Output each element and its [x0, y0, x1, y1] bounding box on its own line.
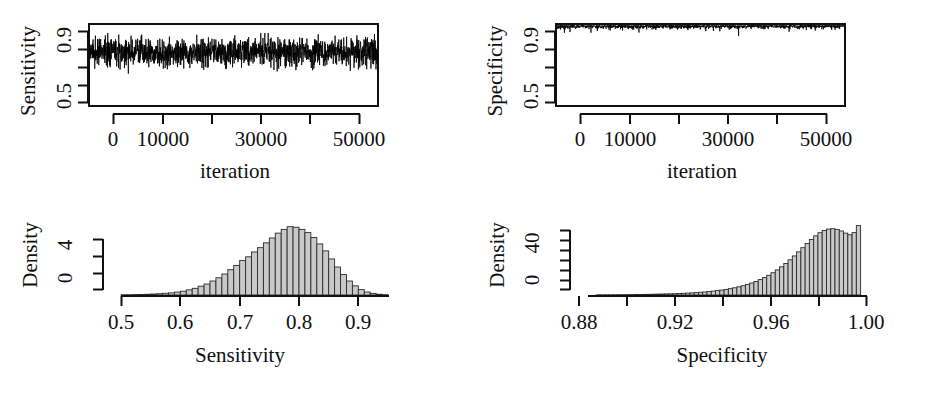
histogram-bar	[222, 274, 228, 295]
histogram-bar	[204, 284, 210, 295]
x-tick-label-1: 0.92	[657, 310, 694, 334]
x-tick-label-1: 0.6	[167, 310, 193, 334]
y-axis-ticks	[560, 230, 570, 290]
histogram-bar	[677, 293, 681, 295]
histogram-bar	[801, 248, 805, 295]
histogram-bar	[724, 289, 728, 295]
histogram-bar	[805, 243, 809, 295]
histogram-bar	[826, 229, 830, 295]
histogram-bar	[287, 227, 293, 295]
y-tick-label-low: 0.5	[52, 83, 76, 109]
histogram-bar	[341, 275, 347, 295]
x-axis-ticks	[113, 114, 360, 124]
histogram-bar	[647, 294, 651, 295]
x-axis-ticks	[579, 296, 867, 306]
specificity-trace-svg: Specificity 0.5 0.9	[467, 0, 934, 198]
histogram-bar	[694, 293, 698, 295]
histogram-bar	[643, 294, 647, 295]
panel-specificity-density: Density 0 40	[467, 198, 934, 395]
y-axis-title: Density	[18, 222, 42, 288]
histogram-bar	[210, 281, 216, 295]
x-axis-title: iteration	[200, 159, 270, 183]
histogram-bar	[831, 229, 835, 295]
histogram-bar	[788, 260, 792, 295]
histogram-bar	[192, 288, 198, 295]
y-tick-label-low: 0.5	[519, 83, 543, 109]
x-axis-title: iteration	[667, 159, 737, 183]
y-tick-label-low: 0	[520, 275, 544, 286]
histogram-bar	[728, 289, 732, 295]
histogram-bar	[848, 235, 852, 295]
y-axis-ticks	[78, 31, 88, 103]
plot-box	[89, 24, 378, 106]
x-tick-label-2: 30000	[235, 127, 288, 151]
histogram-bar	[818, 233, 822, 295]
histogram-bar	[269, 238, 275, 295]
x-tick-label-3: 50000	[333, 127, 386, 151]
histogram-bars	[121, 227, 388, 295]
histogram-bar	[163, 293, 169, 295]
x-axis-ticks	[580, 114, 827, 124]
x-tick-label-1: 10000	[137, 127, 190, 151]
histogram-bar	[157, 294, 163, 295]
histogram-bar	[216, 278, 222, 295]
histogram-bar	[281, 229, 287, 295]
histogram-bar	[703, 292, 707, 295]
histogram-bar	[716, 291, 720, 295]
histogram-bar	[750, 283, 754, 295]
x-tick-label-2: 0.96	[753, 310, 790, 334]
histogram-bar	[669, 294, 673, 295]
x-axis-ticks	[121, 296, 389, 306]
histogram-bar	[711, 291, 715, 295]
histogram-bar	[698, 292, 702, 295]
x-axis-title: Specificity	[677, 343, 768, 367]
histogram-bar	[299, 229, 305, 295]
histogram-bar	[323, 251, 329, 295]
x-tick-label-2: 30000	[702, 127, 755, 151]
sensitivity-density-svg: Density 0 4 0.5 0.6 0.	[0, 198, 467, 395]
histogram-bar	[275, 233, 281, 295]
sensitivity-trace-svg: Sensitivity 0.5 0.9	[0, 0, 467, 198]
panel-sensitivity-trace: Sensitivity 0.5 0.9	[0, 0, 467, 198]
histogram-bar	[335, 267, 341, 295]
histogram-bar	[317, 244, 323, 295]
histogram-bar	[856, 226, 860, 295]
histogram-bar	[686, 293, 690, 295]
x-tick-label-1: 10000	[604, 127, 657, 151]
y-tick-label-high: 40	[520, 233, 544, 254]
histogram-bar	[758, 280, 762, 295]
histogram-bar	[228, 270, 234, 295]
histogram-bar	[809, 239, 813, 295]
histogram-bar	[720, 290, 724, 295]
x-tick-label-0: 0.5	[108, 310, 134, 334]
x-axis-title: Sensitivity	[195, 343, 285, 367]
y-tick-label-high: 0.9	[519, 27, 543, 53]
x-tick-label-0: 0	[108, 127, 119, 151]
histogram-bar	[780, 267, 784, 295]
histogram-bar	[822, 230, 826, 295]
histogram-bar	[151, 294, 157, 295]
histogram-bar	[358, 290, 364, 295]
panel-specificity-trace: Specificity 0.5 0.9	[467, 0, 934, 198]
histogram-bar	[835, 229, 839, 295]
histogram-bar	[771, 273, 775, 295]
histogram-bar	[775, 270, 779, 295]
histogram-bar	[305, 233, 311, 295]
histogram-bar	[352, 286, 358, 295]
histogram-bar	[741, 286, 745, 295]
plot-box	[556, 24, 845, 106]
x-tick-label-3: 50000	[800, 127, 853, 151]
x-tick-label-0: 0.88	[561, 310, 598, 334]
histogram-bar	[733, 288, 737, 295]
histogram-bar	[370, 293, 376, 295]
histogram-bar	[198, 286, 204, 295]
y-tick-label-low: 0	[53, 273, 77, 284]
histogram-bar	[257, 248, 263, 295]
histogram-bar	[346, 281, 352, 295]
histogram-bar	[673, 294, 677, 295]
x-tick-label-4: 0.9	[345, 310, 371, 334]
histogram-bar	[139, 294, 145, 295]
histogram-bar	[844, 233, 848, 295]
histogram-bar	[737, 287, 741, 295]
histogram-bar	[145, 294, 151, 295]
